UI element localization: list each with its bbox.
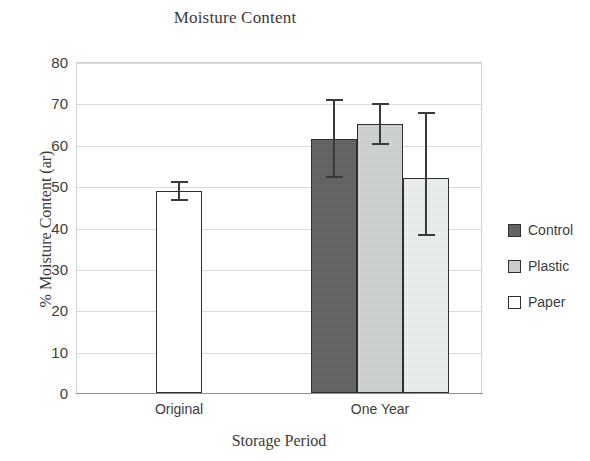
y-axis-tick-label: 20 (24, 302, 68, 319)
y-axis-tick-label: 50 (24, 178, 68, 195)
bar-original-paper (156, 191, 202, 393)
legend-swatch-paper-icon (508, 296, 521, 309)
chart-legend: ControlPlasticPaper (508, 212, 590, 320)
legend-swatch-plastic-icon (508, 260, 521, 273)
legend-label: Paper (528, 294, 565, 310)
x-axis-tick-label: One Year (351, 401, 409, 417)
error-bar-oneyear-control (311, 99, 357, 178)
error-bar-cap-bottom (171, 199, 188, 201)
y-axis-tick-label: 0 (24, 385, 68, 402)
legend-swatch-control-icon (508, 224, 521, 237)
error-bar-cap-top (418, 112, 435, 114)
error-bar-cap-bottom (326, 176, 343, 178)
error-bar-stem (425, 112, 427, 236)
error-bar-cap-bottom (418, 234, 435, 236)
y-axis-tick-label: 30 (24, 260, 68, 277)
y-axis-tick-label: 80 (24, 54, 68, 71)
y-axis-tick-label: 70 (24, 95, 68, 112)
legend-item-control[interactable]: Control (508, 212, 590, 248)
error-bar-original-paper (156, 181, 202, 202)
bar-oneyear-plastic (357, 124, 403, 393)
error-bar-cap-top (372, 103, 389, 105)
x-axis-line (76, 393, 483, 394)
y-axis-tick-label: 60 (24, 136, 68, 153)
error-bar-stem (379, 103, 381, 144)
error-bar-stem (178, 181, 180, 202)
legend-item-plastic[interactable]: Plastic (508, 248, 590, 284)
x-axis-title: Storage Period (76, 432, 482, 450)
error-bar-stem (333, 99, 335, 178)
gridline (77, 63, 481, 64)
legend-label: Plastic (528, 258, 569, 274)
legend-label: Control (528, 222, 573, 238)
error-bar-cap-top (171, 181, 188, 183)
chart-title: Moisture Content (0, 8, 470, 28)
y-axis-tick-label: 10 (24, 343, 68, 360)
error-bar-cap-bottom (372, 143, 389, 145)
moisture-content-chart: Moisture Content % Moisture Content (ar)… (0, 0, 590, 461)
error-bar-oneyear-plastic (357, 103, 403, 144)
error-bar-oneyear-paper (403, 112, 449, 236)
y-axis-tick-labels: 80706050403020100 (24, 0, 68, 461)
gridline (77, 104, 481, 105)
error-bar-cap-top (326, 99, 343, 101)
legend-item-paper[interactable]: Paper (508, 284, 590, 320)
x-axis-tick-label: Original (155, 401, 203, 417)
y-axis-tick-label: 40 (24, 219, 68, 236)
